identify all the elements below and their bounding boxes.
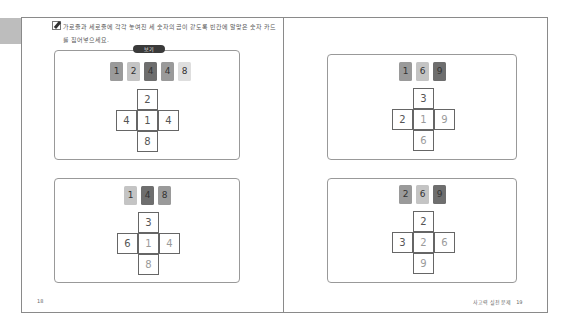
cell-center[interactable]: 1 [413,109,434,130]
card-row: 1 2 4 4 8 [110,62,191,81]
number-card[interactable]: 9 [433,185,446,204]
number-card[interactable]: 9 [433,62,446,81]
cell-bottom[interactable]: 8 [137,131,158,152]
page-divider [283,17,284,313]
chapter-tab [0,18,21,44]
cell-center[interactable]: 1 [138,233,159,254]
section-title: 사고력 실전 문제 [473,299,511,305]
number-card[interactable]: 4 [141,186,154,205]
number-card[interactable]: 1 [124,186,137,205]
number-card[interactable]: 8 [158,186,171,205]
number-card[interactable]: 4 [161,62,174,81]
number-cross: 3 2 1 9 6 [392,88,455,151]
cell-right[interactable]: 4 [159,233,180,254]
cell-right[interactable]: 4 [158,110,179,131]
number-card[interactable]: 6 [416,185,429,204]
cell-center[interactable]: 1 [137,110,158,131]
number-cross: 2 4 1 4 8 [116,89,179,152]
footer-right: 사고력 실전 문제19 [473,298,523,305]
number-card[interactable]: 4 [144,62,157,81]
cell-bottom[interactable]: 9 [413,253,434,274]
number-cross: 2 3 2 6 9 [392,211,455,274]
cell-top[interactable]: 3 [138,212,159,233]
number-card[interactable]: 1 [399,62,412,81]
cell-center[interactable]: 2 [413,232,434,253]
cell-top[interactable]: 2 [413,211,434,232]
card-row: 1 4 8 [124,186,171,205]
page-number-left: 18 [37,298,43,304]
instruction-text: 가로줄과 세로줄에 각각 놓여진 세 숫자의 곱이 같도록 빈칸에 알맞은 숫자… [63,20,278,46]
cell-left[interactable]: 4 [116,110,137,131]
example-badge: 보기 [133,45,165,53]
cell-left[interactable]: 6 [117,233,138,254]
cell-left[interactable]: 3 [392,232,413,253]
cell-right[interactable]: 9 [434,109,455,130]
cell-bottom[interactable]: 8 [138,254,159,275]
pencil-icon [52,21,61,30]
number-card[interactable]: 1 [110,62,123,81]
cell-top[interactable]: 3 [413,88,434,109]
card-row: 1 6 9 [399,62,446,81]
number-card[interactable]: 6 [416,62,429,81]
cell-right[interactable]: 6 [434,232,455,253]
cell-bottom[interactable]: 6 [413,130,434,151]
number-card[interactable]: 2 [399,185,412,204]
page-number-right: 19 [516,299,522,305]
number-cross: 3 6 1 4 8 [117,212,180,275]
cell-top[interactable]: 2 [137,89,158,110]
number-card[interactable]: 8 [178,62,191,81]
number-card[interactable]: 2 [127,62,140,81]
cell-left[interactable]: 2 [392,109,413,130]
card-row: 2 6 9 [399,185,446,204]
